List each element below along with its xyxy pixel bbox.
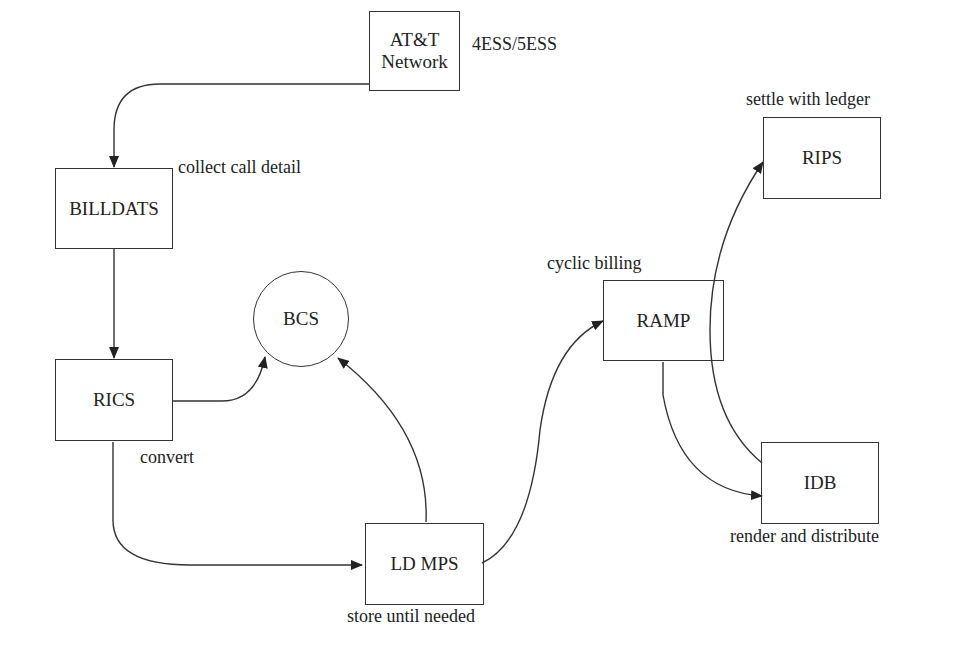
annotation-ldmps: store until needed [347,606,475,627]
node-rics-label: RICS [93,389,135,411]
node-idb: IDB [761,442,879,524]
node-bcs-label: BCS [283,308,319,330]
node-ramp: RAMP [603,280,724,361]
node-ramp-label: RAMP [637,310,691,332]
node-billdats: BILLDATS [55,168,173,249]
annotation-billdats: collect call detail [178,157,301,178]
annotation-ramp: cyclic billing [547,253,641,274]
node-rips-label: RIPS [802,147,842,169]
annotation-rips: settle with ledger [746,89,870,110]
node-att-network: AT&T Network [369,11,460,91]
node-att-network-label: AT&T Network [381,29,447,73]
edge-ramp-idb [663,362,762,496]
annotation-att: 4ESS/5ESS [472,34,557,55]
annotation-rics: convert [140,447,194,468]
node-ld-mps-label: LD MPS [390,553,458,575]
node-ld-mps: LD MPS [365,523,484,605]
node-billdats-label: BILLDATS [69,198,159,220]
edge-att-billdats [114,84,369,167]
node-bcs: BCS [253,271,349,367]
edge-rics-bcs [173,357,265,401]
annotation-idb: render and distribute [730,526,879,547]
billing-flow-diagram: AT&T Network 4ESS/5ESS BILLDATS collect … [0,0,956,664]
edge-ldmps-ramp [482,321,603,563]
edge-ldmps-bcs [338,358,426,522]
node-idb-label: IDB [804,472,837,494]
node-rips: RIPS [763,117,881,199]
node-rics: RICS [55,359,173,441]
